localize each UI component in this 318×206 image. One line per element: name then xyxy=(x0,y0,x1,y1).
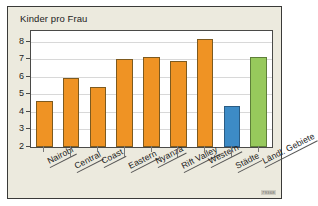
y-axis-tick-label: 4 xyxy=(0,106,24,116)
bar xyxy=(36,101,53,147)
y-axis-tick-mark xyxy=(26,146,30,147)
bar-series xyxy=(31,31,272,147)
bar xyxy=(90,87,107,147)
bar xyxy=(116,59,133,147)
y-axis-tick-label: 3 xyxy=(0,123,24,133)
bar xyxy=(197,39,214,147)
bar xyxy=(170,61,187,147)
y-axis-tick-mark xyxy=(26,128,30,129)
y-axis-tick-label: 8 xyxy=(0,36,24,46)
bar xyxy=(143,57,160,147)
figure-code: 79368 xyxy=(261,190,276,195)
y-axis-tick-mark xyxy=(26,58,30,59)
bar xyxy=(250,57,267,147)
y-axis-tick-mark xyxy=(26,41,30,42)
y-axis-tick-label: 6 xyxy=(0,71,24,81)
y-axis-tick-mark xyxy=(26,76,30,77)
y-axis-tick-label: 7 xyxy=(0,53,24,63)
chart-title: Kinder pro Frau xyxy=(20,13,88,24)
plot-area xyxy=(30,30,273,148)
y-axis-tick-label: 5 xyxy=(0,88,24,98)
figure-panel: Kinder pro Frau 2345678 NairobiCentralCo… xyxy=(7,6,282,199)
y-axis-tick-label: 2 xyxy=(0,141,24,151)
y-axis-tick-mark xyxy=(26,111,30,112)
y-axis-tick-mark xyxy=(26,93,30,94)
bar xyxy=(63,78,80,147)
